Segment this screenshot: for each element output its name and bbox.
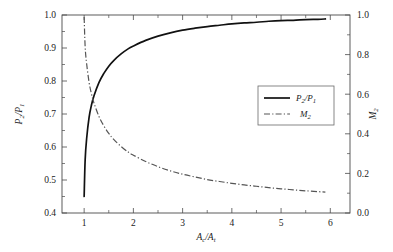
y-right-tick-label: 0.2 — [357, 169, 369, 179]
chart-figure: 123456 1.00.90.80.70.60.50.4 1.00.80.60.… — [0, 0, 393, 252]
x-tick-label: 4 — [229, 218, 234, 228]
ylabel-left-sub2: 1 — [18, 104, 25, 107]
chart-background — [0, 0, 393, 252]
y-right-tick-label: 0.6 — [357, 90, 369, 100]
x-tick-label: 3 — [180, 218, 185, 228]
y-left-tick-label: 1.0 — [44, 10, 56, 20]
chart-svg: 123456 1.00.90.80.70.60.50.4 1.00.80.60.… — [0, 0, 393, 252]
y-right-tick-label: 1.0 — [357, 10, 369, 20]
x-tick-label: 6 — [328, 218, 333, 228]
x-tick-label: 1 — [82, 218, 87, 228]
y-right-tick-label: 0.0 — [357, 208, 369, 218]
x-tick-label: 5 — [279, 218, 284, 228]
svg-text:Ac/At: Ac/At — [195, 232, 215, 243]
legend-box — [258, 86, 334, 125]
xlabel-sub2: t — [214, 236, 216, 243]
x-tick-label: 2 — [131, 218, 136, 228]
y-right-tick-label: 0.8 — [357, 50, 369, 60]
y-left-tick-label: 0.9 — [44, 43, 56, 53]
chart-legend: P2/P1 M2 — [258, 86, 334, 125]
y-left-tick-label: 0.6 — [44, 142, 56, 152]
y-left-tick-label: 0.8 — [44, 76, 56, 86]
y-left-tick-label: 0.4 — [44, 208, 56, 218]
y-left-tick-label: 0.7 — [44, 109, 56, 119]
x-axis-label: Ac/At — [195, 232, 215, 243]
y-right-tick-label: 0.4 — [357, 129, 369, 139]
y-left-tick-label: 0.5 — [44, 175, 56, 185]
